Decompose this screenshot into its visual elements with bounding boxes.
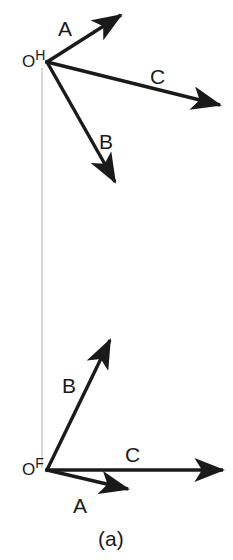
vector-a-frontal <box>47 470 128 489</box>
vector-b-frontal <box>47 340 110 470</box>
origin-point-frontal <box>45 468 49 472</box>
origin-label-horizontal-o: O <box>22 52 35 71</box>
origin-label-frontal-o: O <box>22 460 35 479</box>
vector-label-a-horizontal: A <box>58 18 72 39</box>
origin-label-frontal: OF <box>22 457 44 478</box>
vector-label-a-frontal: A <box>73 495 87 516</box>
figure-caption: (a) <box>98 528 124 549</box>
vector-b-horizontal <box>47 62 115 182</box>
origin-label-frontal-superscript: F <box>35 455 44 471</box>
vector-label-b-frontal: B <box>62 375 76 396</box>
vector-c-horizontal <box>47 62 220 105</box>
origin-label-horizontal-superscript: H <box>35 47 45 63</box>
vector-label-c-horizontal: C <box>150 66 165 87</box>
horizontal-view-group <box>45 15 220 182</box>
origin-label-horizontal: OH <box>22 49 45 70</box>
origin-point-horizontal <box>45 60 49 64</box>
vector-label-c-frontal: C <box>125 444 140 465</box>
vector-diagram-figure: OH A C B OF B C A (a) <box>0 0 233 560</box>
vector-label-b-horizontal: B <box>99 131 113 152</box>
frontal-view-group <box>45 340 223 489</box>
